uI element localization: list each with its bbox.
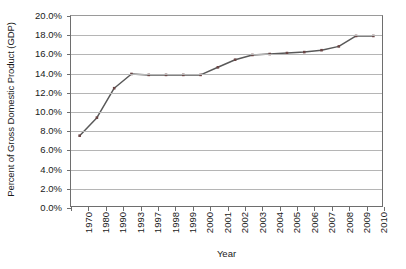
line-chart: Percent of Gross Domestic Product (GDP) … — [0, 0, 406, 269]
y-axis-tick-mark — [67, 74, 71, 75]
x-axis-tick-label: 2003 — [257, 212, 268, 233]
x-axis-tick-label: 2007 — [326, 212, 337, 233]
y-axis-tick-mark — [67, 16, 71, 17]
x-axis-tick-mark — [384, 207, 385, 211]
x-axis-tick-label: 1998 — [170, 212, 181, 233]
gridline — [71, 189, 382, 190]
y-axis-tick-labels: 20.0%18.0%16.0%14.0%12.0%10.0%8.0%6.0%4.… — [20, 15, 65, 207]
x-axis-tick-label-text: 2006 — [309, 212, 320, 233]
gridline — [71, 170, 382, 171]
y-axis-tick-label: 10.0% — [35, 106, 62, 117]
x-axis-tick-mark — [228, 207, 229, 211]
y-axis-tick-label: 2.0% — [40, 182, 62, 193]
x-axis-tick-label-text: 1999 — [187, 212, 198, 233]
x-axis-tick-mark — [88, 207, 89, 211]
y-axis-tick-mark — [67, 150, 71, 151]
x-axis-tick-label: 2001 — [222, 212, 233, 233]
plot-area — [70, 15, 383, 207]
x-axis-tick-mark — [245, 207, 246, 211]
x-axis-tick-label: 2006 — [309, 212, 320, 233]
x-axis-tick-mark — [210, 207, 211, 211]
y-axis-tick-mark — [67, 189, 71, 190]
x-axis-tick-mark — [349, 207, 350, 211]
x-axis-tick-label: 1999 — [187, 212, 198, 233]
y-axis-tick-label: 12.0% — [35, 86, 62, 97]
y-axis-tick-label: 4.0% — [40, 163, 62, 174]
x-axis-tick-label: 2000 — [204, 212, 215, 233]
x-axis-tick-mark — [262, 207, 263, 211]
x-axis-tick-label-text: 2002 — [239, 212, 250, 233]
x-axis-tick-label: 2005 — [291, 212, 302, 233]
x-axis-tick-label-text: 2009 — [361, 212, 372, 233]
x-axis-tick-label: 2010 — [378, 212, 389, 233]
x-axis-tick-label-text: 2007 — [326, 212, 337, 233]
gridline — [71, 74, 382, 75]
x-axis-tick-mark — [123, 207, 124, 211]
x-axis-tick-label-text: 2004 — [274, 212, 285, 233]
x-axis-tick-mark — [158, 207, 159, 211]
x-axis-tick-label: 2004 — [274, 212, 285, 233]
x-axis-tick-mark — [280, 207, 281, 211]
x-axis-tick-mark — [141, 207, 142, 211]
x-axis-tick-mark — [332, 207, 333, 211]
data-point-marker — [217, 66, 220, 69]
x-axis-tick-labels: 1970198019901993199719981999200020012002… — [70, 212, 383, 250]
x-axis-tick-label-text: 2000 — [204, 212, 215, 233]
x-axis-tick-label-text: 2008 — [344, 212, 355, 233]
x-axis-tick-label-text: 2001 — [222, 212, 233, 233]
x-axis-tick-label: 2002 — [239, 212, 250, 233]
gridline — [71, 35, 382, 36]
x-axis-tick-mark — [193, 207, 194, 211]
x-axis-tick-label-text: 1993 — [135, 212, 146, 233]
x-axis-tick-mark — [314, 207, 315, 211]
y-axis-tick-mark — [67, 35, 71, 36]
x-axis-tick-label-text: 1990 — [117, 212, 128, 233]
y-axis-tick-label: 8.0% — [40, 125, 62, 136]
y-axis-tick-mark — [67, 131, 71, 132]
x-axis-tick-label: 1993 — [135, 212, 146, 233]
x-axis-tick-mark — [175, 207, 176, 211]
x-axis-tick-label: 1970 — [83, 212, 94, 233]
y-axis-tick-label: 14.0% — [35, 67, 62, 78]
x-axis-tick-mark — [367, 207, 368, 211]
series-line — [80, 36, 374, 136]
y-axis-title: Percent of Gross Domestic Product (GDP) — [0, 0, 20, 218]
x-axis-tick-mark — [297, 207, 298, 211]
data-point-marker — [338, 45, 341, 48]
data-point-marker — [78, 134, 81, 137]
y-axis-tick-label: 0.0% — [40, 202, 62, 213]
y-axis-title-text: Percent of Gross Domestic Product (GDP) — [5, 22, 16, 197]
x-axis-tick-label: 2009 — [361, 212, 372, 233]
x-axis-tick-label: 1997 — [152, 212, 163, 233]
x-axis-tick-label: 1980 — [100, 212, 111, 233]
x-axis-tick-label: 1990 — [117, 212, 128, 233]
x-axis-tick-label-text: 2010 — [378, 212, 389, 233]
data-point-marker — [303, 51, 306, 54]
gridline — [71, 131, 382, 132]
data-point-marker — [113, 87, 116, 90]
gridline — [71, 54, 382, 55]
data-series-line — [71, 16, 382, 206]
x-axis-tick-label-text: 1970 — [83, 212, 94, 233]
x-axis-tick-label-text: 2005 — [291, 212, 302, 233]
y-axis-tick-label: 20.0% — [35, 10, 62, 21]
x-axis-tick-mark — [106, 207, 107, 211]
gridline — [71, 93, 382, 94]
y-axis-tick-mark — [67, 112, 71, 113]
x-axis-tick-label-text: 1998 — [170, 212, 181, 233]
x-axis-tick-label: 2008 — [344, 212, 355, 233]
data-point-marker — [234, 58, 237, 61]
x-axis-title: Year — [70, 248, 383, 259]
y-axis-tick-label: 18.0% — [35, 29, 62, 40]
gridline — [71, 150, 382, 151]
data-point-marker — [320, 49, 323, 52]
gridline — [71, 112, 382, 113]
x-axis-tick-label-text: 1980 — [100, 212, 111, 233]
y-axis-tick-mark — [67, 54, 71, 55]
x-axis-tick-label-text: 2003 — [257, 212, 268, 233]
y-axis-tick-label: 6.0% — [40, 144, 62, 155]
y-axis-tick-label: 16.0% — [35, 48, 62, 59]
x-axis-tick-mark — [71, 207, 72, 211]
y-axis-tick-mark — [67, 170, 71, 171]
data-point-marker — [96, 116, 99, 119]
